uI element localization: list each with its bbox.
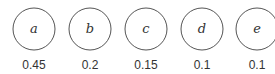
node-label: a [30,21,38,36]
node-probability: 0.45 [22,58,46,72]
node-probability: 0.15 [134,58,158,72]
node-label: d [198,21,206,36]
node-probability: 0.1 [249,58,266,72]
node-label: c [142,21,150,36]
node-probability: 0.2 [82,58,99,72]
node-label: b [86,21,94,36]
node-e: e 0.1 [236,8,275,72]
node-label: e [253,21,261,36]
node-a: a 0.45 [13,8,55,72]
probability-nodes-diagram: a 0.45 b 0.2 c 0.15 d 0.1 e 0.1 [0,0,275,74]
node-c: c 0.15 [125,8,167,72]
node-probability: 0.1 [194,58,211,72]
node-b: b 0.2 [69,8,111,72]
node-d: d 0.1 [181,8,223,72]
